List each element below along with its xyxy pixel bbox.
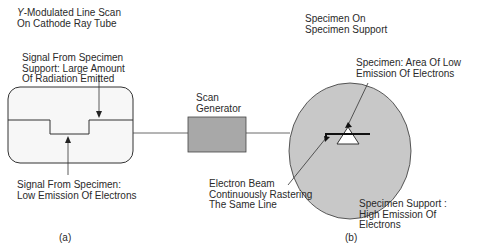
electron-beam-label: Electron Beam Continuously Rastering The… xyxy=(209,179,312,211)
caption-a: (a) xyxy=(59,232,71,243)
crt-title: Y-Modulated Line Scan On Cathode Ray Tub… xyxy=(17,8,121,29)
support-high-label: Specimen Support : High Emission Of Elec… xyxy=(359,199,447,231)
scan-generator-box xyxy=(188,117,246,152)
support-signal-label: Signal From Specimen Support: Large Amou… xyxy=(22,53,125,85)
crt-screen xyxy=(8,87,133,163)
specimen-on-support-label: Specimen On Specimen Support xyxy=(305,14,387,35)
crt-title-italic: Y xyxy=(17,7,24,18)
crt-title-rest: -Modulated Line Scan On Cathode Ray Tube xyxy=(17,7,121,29)
scan-generator-label: Scan Generator xyxy=(196,93,241,114)
specimen-area-label: Specimen: Area Of Low Emission Of Electr… xyxy=(356,58,461,79)
caption-b: (b) xyxy=(345,232,357,243)
specimen-signal-label: Signal From Specimen: Low Emission Of El… xyxy=(17,180,137,201)
